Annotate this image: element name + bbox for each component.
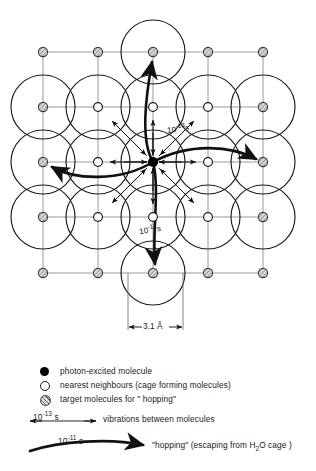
photon-excited-molecule-node [148, 157, 158, 167]
vibration-arrow-to-bottom-right [159, 168, 194, 203]
vibration-arrow-to-top-left [112, 121, 147, 156]
lattice-diagram [0, 0, 316, 471]
dimension-bracket [128, 273, 183, 330]
hopping-arrow-up [145, 62, 153, 162]
hopping-arrow-symbol [30, 441, 143, 451]
